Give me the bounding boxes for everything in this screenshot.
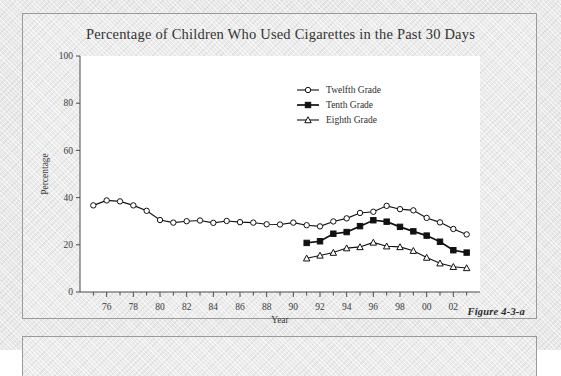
series-data-point: [437, 239, 442, 244]
x-axis-tick-label: 92: [315, 302, 325, 312]
legend-group: Twelfth GradeTenth GradeEighth Grade: [297, 85, 381, 125]
legend-label: Eighth Grade: [326, 115, 377, 125]
x-axis-tick-label: 90: [289, 302, 299, 312]
series-data-point: [397, 206, 402, 211]
x-axis-title: Year: [271, 315, 289, 325]
series-data-point: [371, 218, 376, 223]
series-data-point: [371, 209, 376, 214]
series-data-point: [251, 220, 256, 225]
series-data-point: [304, 223, 309, 228]
series-data-point: [424, 233, 429, 238]
series-data-point: [91, 203, 96, 208]
series-data-point: [423, 254, 429, 260]
series-data-point: [411, 229, 416, 234]
series-data-point: [437, 220, 442, 225]
series-data-point: [464, 232, 469, 237]
y-axis-tick-label: 80: [64, 98, 74, 108]
series-data-point: [331, 219, 336, 224]
series-data-point: [291, 220, 296, 225]
series-data-point: [397, 224, 402, 229]
series-data-point: [317, 239, 322, 244]
legend-label: Twelfth Grade: [326, 85, 381, 95]
x-axis-tick-label: 80: [155, 302, 165, 312]
y-axis-tick-label: 40: [64, 193, 74, 203]
y-axis-tick-label: 100: [59, 51, 74, 61]
series-data-point: [451, 226, 456, 231]
y-axis-tick-label: 0: [68, 287, 73, 297]
x-axis-tick-label: 86: [235, 302, 245, 312]
series-data-point: [411, 208, 416, 213]
x-axis-tick-label: 98: [395, 302, 405, 312]
series-data-point: [144, 208, 149, 213]
series-data-point: [317, 224, 322, 229]
y-axis-tick-label: 20: [64, 240, 74, 250]
series-data-point: [184, 219, 189, 224]
series-data-point: [197, 218, 202, 223]
y-axis-title: Percentage: [40, 153, 50, 195]
legend-item-1: Twelfth Grade: [297, 85, 381, 95]
x-axis-tick-label: 02: [449, 302, 459, 312]
legend-marker: [305, 87, 310, 92]
series-data-point: [384, 219, 389, 224]
x-axis-tick-label: 94: [342, 302, 352, 312]
series-data-point: [424, 215, 429, 220]
legend-label: Tenth Grade: [326, 100, 373, 110]
x-axis-tick-label: 76: [102, 302, 112, 312]
axes-group: 0204060801007678808284868890929496980002…: [40, 51, 480, 325]
series-data-point: [157, 217, 162, 222]
x-axis-tick-label: 00: [422, 302, 432, 312]
series-data-point: [224, 218, 229, 223]
series-data-point: [304, 240, 309, 245]
series-data-point: [370, 239, 376, 245]
series-data-point: [344, 229, 349, 234]
x-axis-tick-label: 88: [262, 302, 272, 312]
series-data-point: [384, 203, 389, 208]
series-data-point: [344, 216, 349, 221]
series-data-point: [451, 248, 456, 253]
series-data-point: [437, 260, 443, 266]
series-data-point: [357, 210, 362, 215]
legend-item-2: Tenth Grade: [297, 100, 373, 110]
x-axis-tick-label: 84: [209, 302, 219, 312]
series-data-point: [277, 222, 282, 227]
series-data-point: [264, 222, 269, 227]
series-group: [91, 198, 470, 271]
series-data-point: [117, 199, 122, 204]
series-data-point: [357, 223, 362, 228]
figure-caption: Figure 4-3-a: [467, 306, 525, 317]
series-data-point: [104, 198, 109, 203]
series-data-point: [131, 203, 136, 208]
series-data-point: [464, 250, 469, 255]
series-data-point: [211, 220, 216, 225]
series-data-point: [331, 231, 336, 236]
series-data-point: [237, 219, 242, 224]
x-axis-tick-label: 96: [369, 302, 379, 312]
legend-item-3: Eighth Grade: [297, 115, 377, 125]
x-axis-tick-label: 82: [182, 302, 192, 312]
series-data-point: [171, 220, 176, 225]
x-axis-tick-label: 78: [129, 302, 139, 312]
legend-marker: [305, 102, 310, 107]
y-axis-tick-label: 60: [64, 146, 74, 156]
